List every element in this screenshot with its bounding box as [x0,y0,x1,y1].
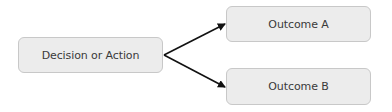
outcome-b-node-label: Outcome B [268,80,328,93]
decision-node: Decision or Action [18,37,163,73]
outcome-b-node: Outcome B [226,68,371,105]
decision-node-label: Decision or Action [42,49,140,62]
arrow-to-outcome-a [164,24,225,55]
arrow-to-outcome-b [164,55,225,87]
outcome-a-node-label: Outcome A [268,18,328,31]
outcome-a-node: Outcome A [226,6,371,42]
